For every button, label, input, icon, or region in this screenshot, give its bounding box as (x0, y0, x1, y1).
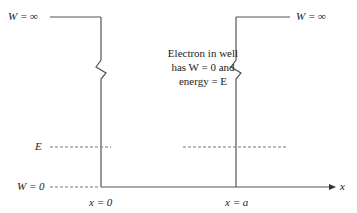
label-w-infinity-right: W = ∞ (296, 11, 326, 22)
label-energy-e: E (35, 141, 42, 152)
caption-line-3: energy = E (148, 74, 258, 88)
caption-line-1: Electron in well (148, 46, 258, 60)
label-x-zero: x = 0 (89, 197, 112, 208)
well-caption: Electron in well has W = 0 and energy = … (148, 46, 258, 88)
label-w-infinity-left: W = ∞ (8, 11, 38, 22)
label-x-a: x = a (225, 197, 248, 208)
x-axis-arrowhead (329, 184, 336, 190)
label-x-axis: x (340, 181, 345, 192)
label-w-zero: W = 0 (17, 181, 45, 192)
potential-well-diagram (0, 0, 357, 213)
caption-line-2: has W = 0 and (148, 60, 258, 74)
left-wall (96, 17, 106, 187)
right-wall (231, 17, 241, 187)
